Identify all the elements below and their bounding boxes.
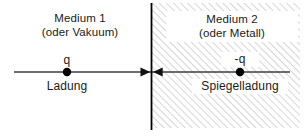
mirror-charge-symbol: -q xyxy=(221,52,259,67)
source-charge-name: Ladung xyxy=(26,79,108,94)
mirror-charge-diagram: Medium 1 (oder Vakuum) Medium 2 (oder Me… xyxy=(0,0,308,136)
source-charge-dot xyxy=(63,68,71,76)
mirror-charge-dot xyxy=(236,68,244,76)
medium1-label: Medium 1 (oder Vakuum) xyxy=(14,11,146,39)
medium2-label: Medium 2 (oder Metall) xyxy=(166,11,298,42)
medium1-subtitle: (oder Vakuum) xyxy=(14,25,146,39)
arrowhead-right-icon xyxy=(141,67,151,76)
medium2-subtitle: (oder Metall) xyxy=(166,26,298,40)
source-charge-symbol: q xyxy=(48,53,86,68)
medium1-title: Medium 1 xyxy=(54,12,105,24)
mirror-charge-name: Spiegelladung xyxy=(192,79,288,94)
medium2-title: Medium 2 xyxy=(206,13,257,25)
